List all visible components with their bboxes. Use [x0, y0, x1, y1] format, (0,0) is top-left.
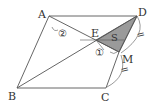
label-d: D [138, 6, 147, 19]
segment-ab [17, 16, 49, 88]
segment-cm [106, 52, 119, 88]
geometry-diagram: = = A B C D E M S ② ① [0, 0, 158, 107]
equal-mark-dm: = [135, 28, 146, 41]
angle-label-1: ① [95, 47, 104, 58]
label-m: M [122, 53, 133, 66]
label-c: C [101, 91, 109, 104]
angle-arc-m [110, 52, 117, 54]
angle-label-2: ② [58, 28, 67, 39]
label-b: B [8, 90, 16, 103]
label-a: A [37, 8, 47, 21]
label-s: S [111, 32, 118, 43]
label-e: E [91, 27, 99, 40]
diagram-canvas: = = A B C D E M S ② ① [0, 0, 158, 107]
